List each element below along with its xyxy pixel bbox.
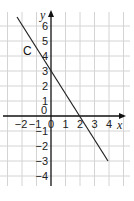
- svg-text:−1: −1: [29, 118, 42, 130]
- svg-text:0: 0: [48, 118, 54, 130]
- svg-text:3: 3: [42, 65, 48, 77]
- svg-text:−2: −2: [35, 140, 48, 152]
- svg-text:4: 4: [106, 118, 112, 130]
- coordinate-plane: x y 6 5 4 3 2 1 −1 −2 −3 −4 −2 −1 0 1 2 …: [0, 0, 134, 201]
- x-axis-label: x: [116, 118, 123, 132]
- y-axis-arrow-icon: [48, 10, 54, 17]
- svg-text:−2: −2: [15, 118, 28, 130]
- svg-text:6: 6: [42, 20, 48, 32]
- svg-text:−4: −4: [35, 170, 48, 182]
- svg-text:1: 1: [62, 118, 68, 130]
- svg-text:3: 3: [91, 118, 97, 130]
- svg-text:−3: −3: [35, 155, 48, 167]
- x-tick-labels: −2 −1 0 1 2 3 4: [15, 118, 112, 130]
- svg-text:2: 2: [42, 80, 48, 92]
- origin-label: 0: [41, 104, 47, 116]
- grid: [0, 12, 130, 186]
- line-c-label: C: [23, 44, 32, 58]
- svg-text:5: 5: [42, 35, 48, 47]
